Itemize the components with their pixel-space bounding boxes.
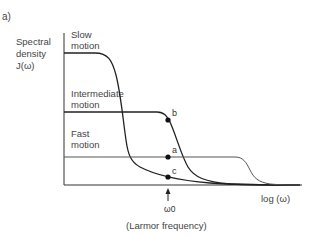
larmor-arrow-icon xyxy=(166,188,171,194)
intermediate-motion-label-line1: Intermediate xyxy=(71,88,124,99)
y-axis-label-line1: Spectral xyxy=(16,36,51,47)
fast-motion-label-line2: motion xyxy=(71,139,100,150)
point-b xyxy=(165,117,170,122)
point-c-label: c xyxy=(172,166,177,176)
spectral-density-diagram: a) Spectral density J(ω) Slow motion Int… xyxy=(0,0,313,237)
larmor-caption: (Larmor frequency) xyxy=(126,220,207,231)
fast-motion-label-line1: Fast xyxy=(71,128,90,139)
y-axis-label-line3: J(ω) xyxy=(16,60,35,71)
point-a xyxy=(165,154,170,159)
slow-motion-label-line2: motion xyxy=(71,40,100,51)
panel-label: a) xyxy=(2,11,11,22)
fast-motion-curve xyxy=(64,157,300,185)
slow-motion-label-line1: Slow xyxy=(71,29,92,40)
slow-motion-curve xyxy=(64,53,300,185)
y-axis-label-line2: density xyxy=(16,48,46,59)
x-axis-label: log (ω) xyxy=(261,193,290,204)
point-b-label: b xyxy=(172,108,177,118)
omega0-label: ω0 xyxy=(164,204,176,214)
point-a-label: a xyxy=(172,145,177,155)
point-c xyxy=(165,174,170,179)
intermediate-motion-label-line2: motion xyxy=(71,99,100,110)
